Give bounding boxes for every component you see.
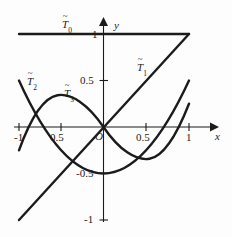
y-tick-label-neg-half: -0.5 <box>76 168 93 179</box>
curve-label-t0: ~ T 0 <box>62 19 72 33</box>
curve-label-t0-subscript: 0 <box>68 26 72 35</box>
origin-label: O <box>95 131 103 142</box>
chebyshev-polynomials-figure: y x O -1 0.5 0.5 1 1 0.5 -0.5 -1 ~ T 0 ~… <box>0 0 232 237</box>
y-axis <box>99 17 108 222</box>
x-axis-label: x <box>215 131 220 142</box>
curve-label-t2-subscript: 2 <box>33 83 37 92</box>
plot-canvas <box>0 0 232 237</box>
x-tick-label-pos1: 1 <box>186 132 192 143</box>
curve-label-t2: ~ T 2 <box>27 76 37 90</box>
y-tick-label-neg1: -1 <box>84 214 93 225</box>
tilde-accent-t2: ~ <box>28 69 33 78</box>
curve-label-t3: ~ T 3 <box>64 88 74 102</box>
tilde-accent-t0: ~ <box>63 12 68 21</box>
y-tick-label-pos1: 1 <box>92 29 98 40</box>
x-tick-label-neg-half: 0.5 <box>50 132 64 143</box>
curve-label-t3-subscript: 3 <box>70 95 74 104</box>
curve-label-t1: ~ T 1 <box>137 62 147 76</box>
tilde-accent-t1: ~ <box>138 55 143 64</box>
y-tick-label-pos-half: 0.5 <box>80 75 94 86</box>
x-tick-label-neg1: -1 <box>14 132 23 143</box>
y-axis-label: y <box>114 20 119 31</box>
x-tick-label-pos-half: 0.5 <box>136 132 150 143</box>
curve-label-t1-subscript: 1 <box>143 69 147 78</box>
tilde-accent-t3: ~ <box>65 81 70 90</box>
